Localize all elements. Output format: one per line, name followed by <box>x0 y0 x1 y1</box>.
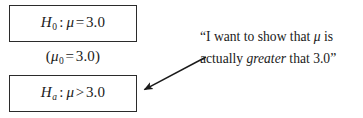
alternative-hypothesis-operator: > <box>76 84 85 100</box>
annotation-line1-tail: is <box>320 29 332 44</box>
annotation-line1-lead: I want to show that <box>206 29 314 44</box>
annotation-emphasis: greater <box>246 51 286 66</box>
parameter-note-operator: = <box>66 48 75 64</box>
alternative-hypothesis-subscript: a <box>52 92 57 102</box>
annotation-line2-tail: that 3.0 <box>286 51 330 66</box>
alternative-hypothesis-symbol: H <box>41 84 52 100</box>
annotation-line2-lead: actually <box>200 51 246 66</box>
parameter-note: (μ0=3.0) <box>9 47 137 66</box>
null-hypothesis-subscript: 0 <box>52 22 57 32</box>
parameter-note-value: 3.0 <box>76 48 95 64</box>
null-hypothesis-symbol: H <box>41 14 52 30</box>
parameter-note-subscript: 0 <box>59 56 64 66</box>
parameter-note-close-paren: ) <box>95 48 100 64</box>
alternative-hypothesis-expression: Ha:μ>3.0 <box>41 85 106 102</box>
annotation-close-quote: ” <box>330 51 336 66</box>
null-hypothesis-separator: : <box>59 14 63 30</box>
parameter-note-parameter: μ <box>51 48 59 64</box>
parameter-note-expression: (μ0=3.0) <box>46 48 101 64</box>
null-hypothesis-operator: = <box>76 14 85 30</box>
alternative-hypothesis-parameter: μ <box>67 84 75 100</box>
null-hypothesis-expression: H0:μ=3.0 <box>41 15 106 32</box>
alternative-hypothesis-value: 3.0 <box>86 84 105 100</box>
null-hypothesis-parameter: μ <box>67 14 75 30</box>
null-hypothesis-value: 3.0 <box>86 14 105 30</box>
alternative-hypothesis-separator: : <box>59 84 63 100</box>
hypothesis-figure: H0:μ=3.0 (μ0=3.0) Ha:μ>3.0 “I want to sh… <box>0 0 363 118</box>
arrow-shaft <box>144 57 206 90</box>
annotation-text: “I want to show that μ is actually great… <box>200 26 360 70</box>
null-hypothesis-box: H0:μ=3.0 <box>9 5 137 42</box>
alternative-hypothesis-box: Ha:μ>3.0 <box>9 75 137 112</box>
